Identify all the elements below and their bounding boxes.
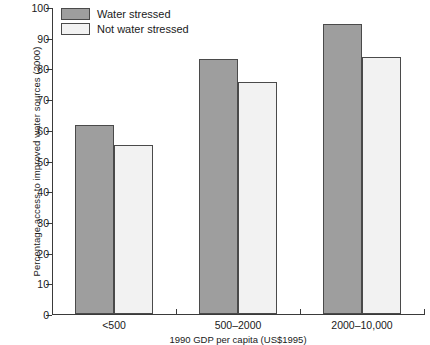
chart-legend: Water stressed Not water stressed	[61, 8, 189, 38]
legend-label-not-water-stressed: Not water stressed	[97, 23, 189, 35]
legend-swatch-not-water-stressed	[61, 23, 90, 35]
bar	[75, 125, 114, 314]
bar	[323, 24, 362, 314]
y-tick-label: 30	[37, 217, 49, 229]
x-axis-title: 1990 GDP per capita (US$1995)	[52, 334, 424, 345]
y-tick-label: 90	[37, 33, 49, 45]
bar	[199, 59, 238, 314]
y-tick-label: 40	[37, 186, 49, 198]
bar	[114, 145, 153, 314]
y-axis-line	[52, 8, 53, 315]
y-tick-label: 60	[37, 125, 49, 137]
x-tick-mark	[424, 309, 425, 315]
legend-item-not-water-stressed: Not water stressed	[61, 23, 189, 35]
legend-item-water-stressed: Water stressed	[61, 8, 189, 20]
x-tick-label: <500	[102, 319, 126, 331]
y-tick-label: 50	[37, 156, 49, 168]
legend-swatch-water-stressed	[61, 8, 90, 20]
y-tick-label: 10	[37, 278, 49, 290]
bar	[238, 82, 277, 314]
x-axis-line	[52, 314, 424, 315]
plot-area: 0102030405060708090100 <500500–20002000–…	[52, 8, 424, 315]
x-tick-label: 2000–10,000	[331, 319, 392, 331]
y-tick-label: 20	[37, 248, 49, 260]
x-tick-mark	[300, 309, 301, 315]
y-tick-label: 70	[37, 94, 49, 106]
y-tick-label: 100	[31, 2, 49, 14]
bar	[362, 57, 401, 314]
legend-label-water-stressed: Water stressed	[97, 8, 171, 20]
x-tick-mark	[176, 309, 177, 315]
y-tick-label: 0	[43, 309, 49, 321]
x-tick-label: 500–2000	[215, 319, 262, 331]
y-tick-label: 80	[37, 63, 49, 75]
